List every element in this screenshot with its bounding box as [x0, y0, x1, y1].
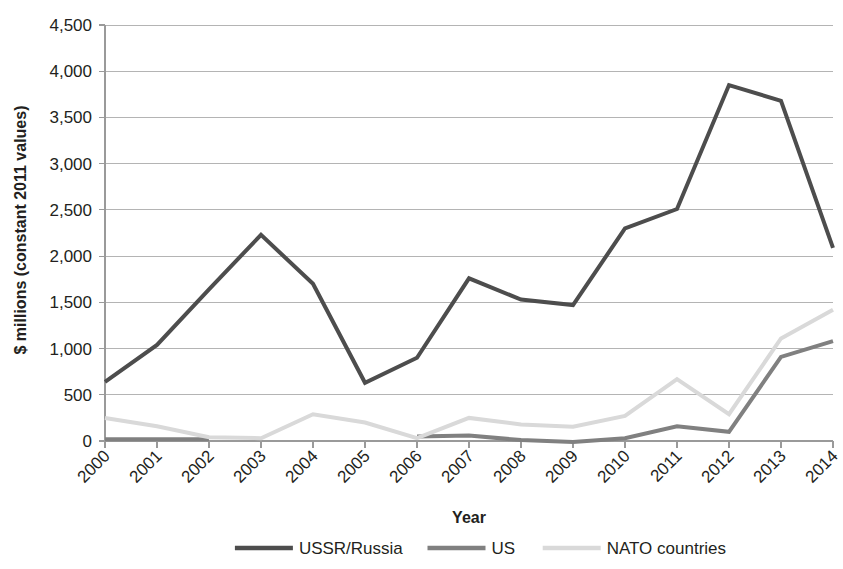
y-axis-title: $ millions (constant 2011 values) [12, 106, 29, 355]
x-tick-label: 2001 [126, 446, 166, 486]
chart-legend: USSR/RussiaUSNATO countries [235, 539, 726, 558]
legend-label: NATO countries [607, 539, 726, 558]
chart-canvas: 05001,0001,5002,0002,5003,0003,5004,0004… [0, 0, 843, 569]
x-axis-title: Year [452, 509, 486, 526]
y-tick-label: 1,500 [49, 293, 92, 312]
y-tick-label: 2,500 [49, 201, 92, 220]
gridlines [105, 25, 833, 441]
line-chart-figure: 05001,0001,5002,0002,5003,0003,5004,0004… [0, 0, 843, 569]
x-tick-label: 2010 [594, 446, 634, 486]
x-tick-label: 2011 [647, 446, 686, 485]
y-tick-label: 3,500 [49, 108, 92, 127]
y-tick-label: 4,500 [49, 16, 92, 35]
y-tick-label: 2,000 [49, 247, 92, 266]
y-axis-tick-labels: 05001,0001,5002,0002,5003,0003,5004,0004… [49, 16, 92, 451]
x-tick-label: 2013 [750, 446, 790, 486]
series-line-ussr-russia [105, 85, 833, 383]
y-tick-label: 500 [64, 386, 92, 405]
legend-label: USSR/Russia [299, 539, 403, 558]
axes [99, 25, 833, 441]
series-line-nato-countries [105, 310, 833, 439]
x-tick-label: 2002 [178, 446, 218, 486]
x-tick-label: 2006 [386, 446, 426, 486]
legend-label: US [492, 539, 516, 558]
legend-item[interactable]: NATO countries [543, 539, 726, 558]
x-tick-label: 2000 [74, 446, 114, 486]
y-tick-label: 4,000 [49, 62, 92, 81]
y-tick-label: 1,000 [49, 340, 92, 359]
x-tick-label: 2009 [542, 446, 582, 486]
x-tick-label: 2012 [698, 446, 738, 486]
x-tick-label: 2004 [282, 446, 322, 486]
x-tick-label: 2008 [490, 446, 530, 486]
x-tick-label: 2014 [802, 446, 842, 486]
legend-item[interactable]: USSR/Russia [235, 539, 403, 558]
legend-item[interactable]: US [428, 539, 516, 558]
y-tick-label: 0 [83, 432, 92, 451]
data-series [105, 85, 833, 442]
x-tick-label: 2007 [438, 446, 478, 486]
x-tick-label: 2003 [230, 446, 270, 486]
y-tick-label: 3,000 [49, 155, 92, 174]
x-tick-label: 2005 [334, 446, 374, 486]
x-axis-tick-labels: 2000200120022003200420052006200720082009… [74, 446, 842, 486]
